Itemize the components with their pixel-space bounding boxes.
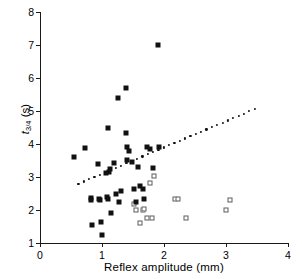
data-point	[118, 188, 123, 193]
x-tick-label-1: 1	[99, 250, 105, 261]
y-tick-label-3: 3	[28, 172, 34, 183]
regression-line-dot	[216, 124, 218, 126]
data-point	[175, 196, 180, 201]
data-point	[98, 219, 103, 224]
regression-line-dot	[243, 112, 245, 114]
x-tick-2	[164, 243, 165, 247]
data-point	[150, 165, 155, 170]
y-tick-label-7: 7	[28, 40, 34, 51]
x-tick-label-4: 4	[285, 250, 291, 261]
regression-line-dot	[163, 146, 165, 148]
regression-line-dot	[200, 131, 202, 133]
regression-line-dot	[205, 128, 207, 130]
data-point	[89, 198, 94, 203]
y-tick-7	[36, 45, 40, 46]
y-tick-8	[36, 12, 40, 13]
y-tick-4	[36, 144, 40, 145]
data-point	[134, 208, 139, 213]
data-point	[123, 85, 128, 90]
regression-line-dot	[147, 153, 149, 155]
data-point	[82, 145, 87, 150]
plot-area: 12345678 01234	[40, 12, 288, 243]
y-tick-label-8: 8	[28, 7, 34, 18]
y-tick-label-1: 1	[28, 238, 34, 249]
x-tick-0	[40, 243, 41, 247]
x-tick-label-3: 3	[223, 250, 229, 261]
data-point	[90, 222, 95, 227]
x-tick-4	[288, 243, 289, 247]
regression-line-dot	[136, 158, 138, 160]
data-point	[134, 199, 139, 204]
regression-line-dot	[179, 140, 181, 142]
regression-line-dot	[221, 121, 223, 123]
y-tick-3	[36, 177, 40, 178]
scatter-plot-figure: 12345678 01234 Reflex amplitude (mm) t3/…	[0, 0, 302, 279]
regression-line-dot	[195, 133, 197, 135]
y-axis-label-units: (s)	[19, 104, 31, 117]
regression-line-dot	[237, 115, 239, 117]
y-axis-label-subscript: 3/4	[24, 121, 33, 131]
data-point	[115, 96, 120, 101]
data-point	[155, 43, 160, 48]
regression-line-dot	[125, 162, 127, 164]
data-point	[98, 198, 103, 203]
regression-line-dot	[120, 164, 122, 166]
y-axis-label-symbol: t	[19, 131, 31, 134]
data-point	[129, 159, 134, 164]
x-tick-1	[102, 243, 103, 247]
regression-line-dot	[253, 108, 255, 110]
y-tick-6	[36, 78, 40, 79]
data-point	[142, 197, 147, 202]
data-point	[100, 232, 105, 237]
regression-line-dot	[227, 119, 229, 121]
regression-line-dot	[211, 126, 213, 128]
y-axis-line	[40, 12, 41, 243]
data-point	[106, 125, 111, 130]
regression-line-dot	[173, 142, 175, 144]
y-tick-label-2: 2	[28, 205, 34, 216]
regression-line-dot	[93, 176, 95, 178]
data-point	[224, 208, 229, 213]
data-point	[135, 165, 140, 170]
y-tick-2	[36, 210, 40, 211]
data-point	[183, 215, 188, 220]
regression-line-dot	[83, 180, 85, 182]
regression-line-dot	[88, 178, 90, 180]
regression-line-dot	[99, 173, 101, 175]
regression-line-dot	[184, 137, 186, 139]
y-axis-label: t3/4 (s)	[19, 71, 33, 167]
x-axis-label: Reflex amplitude (mm)	[40, 261, 288, 273]
data-point	[138, 220, 143, 225]
data-point	[116, 199, 121, 204]
data-point	[95, 162, 100, 167]
data-point	[142, 207, 147, 212]
data-point	[152, 174, 157, 179]
data-point	[157, 145, 162, 150]
x-tick-label-2: 2	[161, 250, 167, 261]
data-point	[108, 211, 113, 216]
regression-line-dot	[189, 135, 191, 137]
data-point	[148, 147, 153, 152]
data-point	[228, 197, 233, 202]
data-point	[124, 130, 129, 135]
data-point	[140, 186, 145, 191]
regression-line-dot	[232, 117, 234, 119]
data-point	[149, 215, 154, 220]
regression-line-dot	[115, 167, 117, 169]
data-point	[132, 186, 137, 191]
regression-line-dot	[248, 110, 250, 112]
regression-line-dot	[141, 155, 143, 157]
data-point	[126, 148, 131, 153]
data-point	[112, 160, 117, 165]
data-point	[105, 197, 110, 202]
data-point	[108, 166, 113, 171]
regression-line-dot	[77, 183, 79, 185]
y-tick-5	[36, 111, 40, 112]
data-point	[72, 155, 77, 160]
x-tick-3	[226, 243, 227, 247]
x-tick-label-0: 0	[37, 250, 43, 261]
data-point	[148, 180, 153, 185]
regression-line-dot	[168, 144, 170, 146]
